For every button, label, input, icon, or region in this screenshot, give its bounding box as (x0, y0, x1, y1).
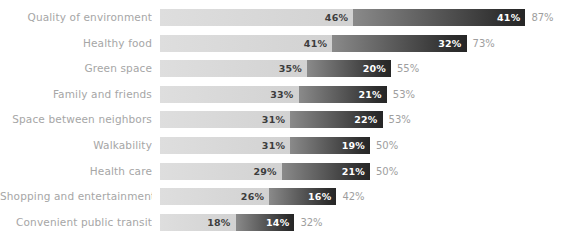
row-total-label: 53% (383, 111, 411, 128)
segment-value-label: 16% (308, 191, 336, 202)
segment-value-label: 41% (497, 12, 525, 23)
bar-segment-primary: 31% (160, 111, 290, 128)
category-label: Family and friends (0, 86, 152, 103)
chart-row: Healthy food41%32%73% (0, 35, 571, 52)
row-total-label: 50% (370, 137, 398, 154)
row-total-label: 73% (467, 35, 495, 52)
bar-segment-primary: 41% (160, 35, 332, 52)
bar-segment-primary: 35% (160, 60, 307, 77)
bar-track: 31%22%53% (160, 111, 383, 128)
segment-value-label: 46% (325, 12, 353, 23)
chart-row: Space between neighbors31%22%53% (0, 111, 571, 128)
bar-segment-secondary: 16% (269, 188, 336, 205)
segment-value-label: 33% (270, 89, 298, 100)
bar-track: 35%20%55% (160, 60, 391, 77)
segment-value-label: 41% (304, 38, 332, 49)
bar-segment-primary: 46% (160, 9, 353, 26)
category-label: Shopping and entertainment (0, 188, 152, 205)
bar-segment-primary: 29% (160, 163, 282, 180)
segment-value-label: 29% (253, 166, 281, 177)
bar-segment-secondary: 21% (282, 163, 370, 180)
stacked-bar-chart: Quality of environment46%41%87%Healthy f… (0, 0, 571, 240)
chart-row: Walkability31%19%50% (0, 137, 571, 154)
bar-segment-primary: 31% (160, 137, 290, 154)
category-label: Space between neighbors (0, 111, 152, 128)
category-label: Walkability (0, 137, 152, 154)
bar-segment-secondary: 41% (353, 9, 525, 26)
category-label: Green space (0, 60, 152, 77)
segment-value-label: 21% (358, 89, 386, 100)
chart-row: Quality of environment46%41%87% (0, 9, 571, 26)
category-label: Convenient public transit (0, 214, 152, 231)
segment-value-label: 26% (241, 191, 269, 202)
bar-segment-secondary: 22% (290, 111, 382, 128)
bar-track: 33%21%53% (160, 86, 387, 103)
segment-value-label: 20% (363, 63, 391, 74)
chart-row: Health care29%21%50% (0, 163, 571, 180)
bar-track: 41%32%73% (160, 35, 467, 52)
segment-value-label: 35% (279, 63, 307, 74)
bar-track: 29%21%50% (160, 163, 370, 180)
segment-value-label: 31% (262, 114, 290, 125)
segment-value-label: 32% (438, 38, 466, 49)
bar-track: 26%16%42% (160, 188, 336, 205)
chart-row: Family and friends33%21%53% (0, 86, 571, 103)
bar-segment-secondary: 32% (332, 35, 466, 52)
chart-row: Convenient public transit18%14%32% (0, 214, 571, 231)
row-total-label: 55% (391, 60, 419, 77)
bar-segment-primary: 33% (160, 86, 299, 103)
bar-track: 46%41%87% (160, 9, 525, 26)
chart-row: Shopping and entertainment26%16%42% (0, 188, 571, 205)
bar-track: 18%14%32% (160, 214, 294, 231)
bar-segment-primary: 26% (160, 188, 269, 205)
row-total-label: 53% (387, 86, 415, 103)
bar-segment-secondary: 19% (290, 137, 370, 154)
bar-segment-secondary: 20% (307, 60, 391, 77)
row-total-label: 42% (336, 188, 364, 205)
row-total-label: 87% (525, 9, 553, 26)
segment-value-label: 21% (342, 166, 370, 177)
category-label: Health care (0, 163, 152, 180)
segment-value-label: 31% (262, 140, 290, 151)
chart-row: Green space35%20%55% (0, 60, 571, 77)
segment-value-label: 18% (207, 217, 235, 228)
row-total-label: 50% (370, 163, 398, 180)
segment-value-label: 14% (266, 217, 294, 228)
segment-value-label: 19% (342, 140, 370, 151)
bar-segment-secondary: 14% (236, 214, 295, 231)
bar-segment-secondary: 21% (299, 86, 387, 103)
category-label: Quality of environment (0, 9, 152, 26)
segment-value-label: 22% (354, 114, 382, 125)
category-label: Healthy food (0, 35, 152, 52)
row-total-label: 32% (294, 214, 322, 231)
bar-segment-primary: 18% (160, 214, 236, 231)
bar-track: 31%19%50% (160, 137, 370, 154)
